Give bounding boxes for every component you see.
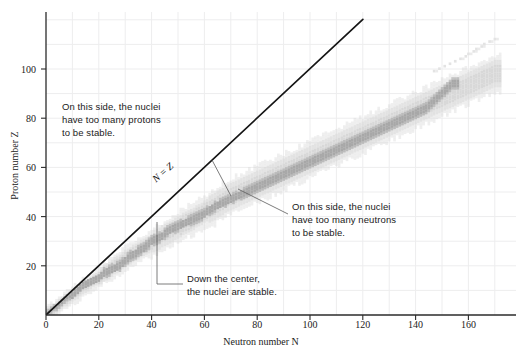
nuclide-cell xyxy=(332,135,335,138)
nuclide-cell xyxy=(338,142,341,145)
nuclide-cell xyxy=(470,69,473,72)
nuclide-cell xyxy=(198,210,201,213)
nuclide-cell xyxy=(227,184,230,187)
nuclide-cell xyxy=(288,158,291,161)
nuclide-cell xyxy=(459,86,462,89)
nuclide-cell xyxy=(332,145,335,148)
nuclide-cell xyxy=(50,301,53,304)
nuclide-cell xyxy=(454,74,457,77)
nuclide-cell xyxy=(301,167,304,170)
nuclide-cell xyxy=(369,145,372,148)
nuclide-cell xyxy=(422,118,425,121)
nuclide-cell xyxy=(208,206,211,209)
nuclide-cell xyxy=(396,128,399,131)
nuclide-cell xyxy=(486,88,489,91)
nuclide-cell xyxy=(325,141,328,144)
nuclide-cell xyxy=(190,226,193,229)
nuclide-cell xyxy=(240,176,243,179)
nuclide-cell xyxy=(406,108,409,111)
nuclide-cell xyxy=(193,208,196,211)
nuclide-cell xyxy=(303,144,306,147)
nuclide-cell xyxy=(462,97,465,100)
nuclide-cell xyxy=(259,167,262,170)
nuclide-cell xyxy=(256,168,259,171)
nuclide-cell xyxy=(113,262,116,265)
nuclide-cell xyxy=(488,57,491,60)
nuclide-cell xyxy=(319,156,322,159)
nuclide-cell xyxy=(216,215,219,218)
nuclide-cell xyxy=(119,259,122,262)
nuclide-cell xyxy=(319,163,322,166)
nuclide-cell xyxy=(179,213,182,216)
nuclide-cell xyxy=(475,96,478,99)
nuclide-cell xyxy=(425,117,428,120)
nuclide-cell xyxy=(459,76,462,79)
nuclide-cell xyxy=(430,107,433,110)
nuclide-cell xyxy=(354,120,357,123)
nuclide-cell xyxy=(92,274,95,277)
nuclide-cell xyxy=(457,99,460,102)
nuclide-cell xyxy=(211,194,214,197)
nuclide-cell xyxy=(227,182,230,185)
nuclide-cell xyxy=(356,139,359,142)
nuclide-cell xyxy=(214,208,217,211)
nuclide-cell xyxy=(274,192,277,195)
nuclide-cell xyxy=(306,177,309,180)
nuclide-cell xyxy=(457,87,460,90)
nuclide-cell xyxy=(404,99,407,102)
nuclide-cell xyxy=(142,256,145,259)
nuclear-stability-chart xyxy=(0,0,522,352)
nuclide-cell xyxy=(200,223,203,226)
nuclide-cell xyxy=(142,245,145,248)
nuclide-cell xyxy=(396,125,399,128)
nuclide-cell xyxy=(306,152,309,155)
nuclide-cell xyxy=(301,165,304,168)
nuclide-cell xyxy=(438,67,441,70)
nuclide-cell xyxy=(158,239,161,242)
nuclide-cell xyxy=(298,183,301,186)
nuclide-cell xyxy=(362,144,365,147)
nuclide-cell xyxy=(309,168,312,171)
nuclide-cell xyxy=(465,96,468,99)
nuclide-cell xyxy=(132,258,135,261)
nuclide-cell xyxy=(470,98,473,101)
nuclide-cell xyxy=(327,165,330,168)
nuclide-cell xyxy=(303,158,306,161)
nuclide-cell xyxy=(393,114,396,117)
nuclide-cell xyxy=(58,306,61,309)
nuclide-cell xyxy=(124,257,127,260)
nuclide-cell xyxy=(145,255,148,258)
nuclide-cell xyxy=(472,87,475,90)
nuclide-cell xyxy=(330,139,333,142)
nuclide-cell xyxy=(480,74,483,77)
nuclide-cell xyxy=(388,107,391,110)
nuclide-cell xyxy=(454,60,457,63)
nuclide-cell xyxy=(256,188,259,191)
nuclide-cell xyxy=(356,124,359,127)
nuclide-cell xyxy=(166,245,169,248)
nuclide-cell xyxy=(446,114,449,117)
nuclide-cell xyxy=(290,155,293,158)
nuclide-cell xyxy=(248,172,251,175)
nuclide-cell xyxy=(465,91,468,94)
nuclide-cell xyxy=(206,205,209,208)
nuclide-cell xyxy=(309,166,312,169)
nuclide-cell xyxy=(478,97,481,100)
nuclide-cell xyxy=(335,149,338,152)
nuclide-cell xyxy=(475,93,478,96)
nuclide-cell xyxy=(214,210,217,213)
y-tick-label: 100 xyxy=(10,64,36,75)
nuclide-cell xyxy=(148,256,151,259)
nuclide-cell xyxy=(354,140,357,143)
nuclide-cell xyxy=(443,81,446,84)
nuclide-cell xyxy=(406,115,409,118)
nuclide-cell xyxy=(438,108,441,111)
nuclide-cell xyxy=(399,122,402,125)
nuclide-cell xyxy=(298,156,301,159)
nuclide-cell xyxy=(311,152,314,155)
nuclide-cell xyxy=(248,204,251,207)
nuclide-cell xyxy=(322,140,325,143)
nuclide-cell xyxy=(494,90,497,93)
nuclide-cell xyxy=(214,198,217,201)
nuclide-cell xyxy=(478,87,481,90)
